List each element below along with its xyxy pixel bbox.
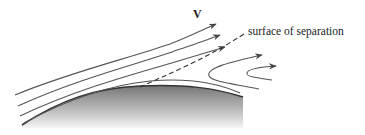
streamline-1 <box>15 24 216 95</box>
recirculation-lines <box>209 55 276 89</box>
separation-line <box>140 34 244 87</box>
velocity-label: V <box>193 7 202 21</box>
recirculation-line-1 <box>209 55 262 89</box>
separation-label: surface of separation <box>248 25 344 38</box>
recirculation-line-2 <box>247 66 276 80</box>
solid-body <box>22 85 243 128</box>
flow-separation-diagram: V surface of separation <box>0 0 365 135</box>
